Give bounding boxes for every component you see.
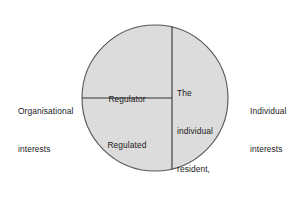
individual-interests-label-line1: Individual bbox=[250, 105, 286, 118]
individual-interests-label: Individual interests bbox=[250, 80, 286, 181]
individual-client-label-line2: individual bbox=[177, 125, 213, 138]
regulator-segment-label-text: Regulator bbox=[82, 93, 172, 106]
individual-client-label-line1: The bbox=[177, 87, 213, 100]
regulated-segment-label: Regulated bbox=[82, 114, 172, 177]
organisational-interests-label: Organisational interests bbox=[18, 80, 73, 181]
individual-client-segment-label: The individual resident, patient, client bbox=[177, 62, 213, 197]
regulated-segment-label-text: Regulated bbox=[82, 139, 172, 152]
organisational-interests-label-line1: Organisational bbox=[18, 105, 73, 118]
individual-client-label-line3: resident, bbox=[177, 163, 213, 176]
individual-interests-label-line2: interests bbox=[250, 143, 286, 156]
diagram-container: Organisational interests Individual inte… bbox=[0, 0, 303, 197]
organisational-interests-label-line2: interests bbox=[18, 143, 73, 156]
